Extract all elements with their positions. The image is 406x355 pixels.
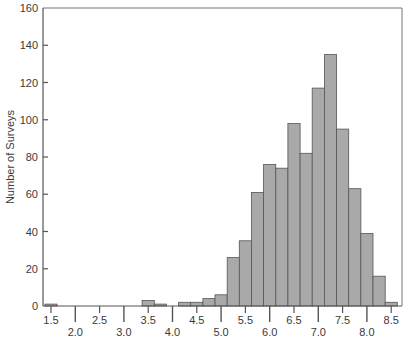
x-minor-tick-label: 3.5: [141, 314, 156, 326]
x-minor-tick-label: 2.5: [92, 314, 107, 326]
histogram-bar: [142, 300, 154, 306]
bars: [45, 55, 397, 306]
y-tick-label: 40: [26, 226, 38, 238]
y-tick-label: 160: [20, 2, 38, 14]
histogram-bar: [276, 168, 288, 306]
histogram-bar: [312, 88, 324, 306]
histogram-bar: [300, 153, 312, 306]
x-minor-tick-label: 4.5: [189, 314, 204, 326]
x-minor-tick-label: 7.5: [335, 314, 350, 326]
histogram-bar: [203, 299, 215, 306]
histogram-bar: [239, 241, 251, 306]
y-tick-label: 120: [20, 77, 38, 89]
x-minor-tick-label: 5.5: [238, 314, 253, 326]
y-tick-label: 140: [20, 39, 38, 51]
histogram-bar: [288, 124, 300, 307]
histogram-bar: [361, 233, 373, 306]
x-minor-tick-label: 6.5: [286, 314, 301, 326]
y-tick-label: 100: [20, 114, 38, 126]
x-major-tick-label: 7.0: [311, 326, 326, 338]
x-major-tick-label: 6.0: [262, 326, 277, 338]
x-major-tick-label: 8.0: [359, 326, 374, 338]
histogram-bar: [373, 276, 385, 306]
y-tick-label: 0: [32, 300, 38, 312]
x-minor-tick-label: 8.5: [384, 314, 399, 326]
y-axis-title: Number of Surveys: [4, 109, 16, 204]
histogram-chart: 020406080100120140160 2.03.04.05.06.07.0…: [0, 0, 406, 355]
histogram-bar: [264, 165, 276, 307]
y-tick-label: 80: [26, 151, 38, 163]
y-tick-label: 60: [26, 188, 38, 200]
x-major-tick-label: 5.0: [213, 326, 228, 338]
histogram-bar: [215, 295, 227, 306]
histogram-bar: [324, 55, 336, 306]
histogram-bar: [252, 192, 264, 306]
x-major-tick-label: 3.0: [116, 326, 131, 338]
x-major-tick-label: 2.0: [68, 326, 83, 338]
y-axis: 020406080100120140160: [20, 2, 48, 312]
histogram-bar: [349, 189, 361, 306]
histogram-bar: [337, 129, 349, 306]
histogram-bar: [227, 258, 239, 306]
x-major-tick-label: 4.0: [165, 326, 180, 338]
x-axis: 2.03.04.05.06.07.08.01.52.53.54.55.56.57…: [43, 306, 402, 338]
x-minor-tick-label: 1.5: [43, 314, 58, 326]
y-tick-label: 20: [26, 263, 38, 275]
